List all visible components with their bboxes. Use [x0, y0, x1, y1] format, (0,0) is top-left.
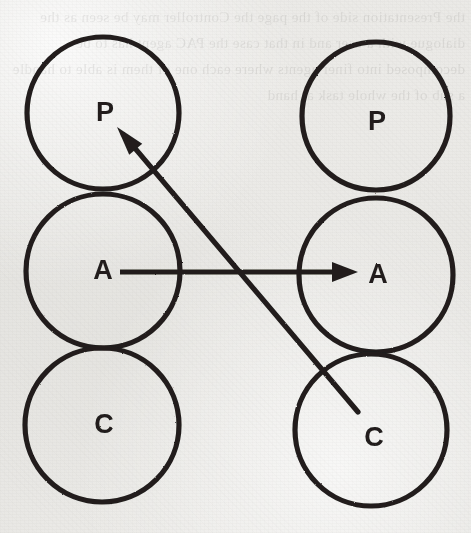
node-label-left-p: P — [96, 97, 114, 127]
node-label-right-p: P — [368, 106, 386, 136]
horizontal-arrow-head — [332, 262, 358, 282]
node-label-right-a: A — [368, 259, 388, 289]
figure-root: the Presentation side of the page the Co… — [0, 0, 471, 533]
node-label-left-a: A — [93, 255, 113, 285]
horizontal-arrow-left-a-to-right-a[interactable] — [120, 262, 358, 282]
node-label-left-c: C — [94, 409, 114, 439]
pac-diagram: P A C P A C — [0, 0, 471, 533]
node-label-right-c: C — [364, 422, 384, 452]
